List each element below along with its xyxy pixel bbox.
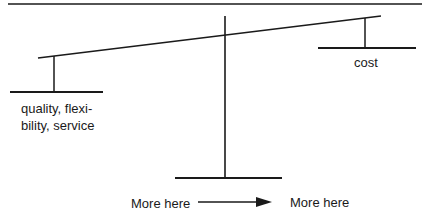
balance-diagram: quality, flexi- bility, service cost Mor…	[0, 0, 427, 217]
left-pan-label-line-2: bility, service	[21, 118, 94, 133]
balance-beam	[38, 16, 381, 58]
bottom-right-label: More here	[290, 195, 349, 210]
left-pan-label-line-1: quality, flexi-	[21, 101, 92, 116]
arrow-right-icon	[256, 197, 272, 207]
bottom-left-label: More here	[131, 196, 190, 211]
right-pan-label: cost	[354, 55, 378, 70]
